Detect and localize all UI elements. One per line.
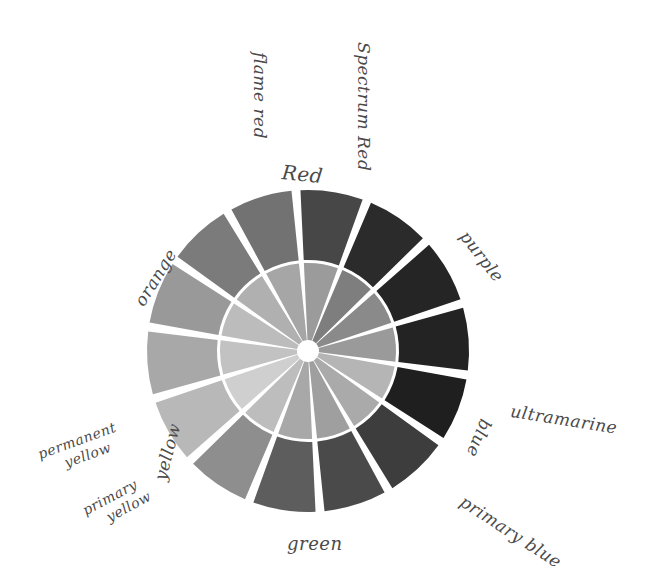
label-flame-red: flame red <box>251 52 268 139</box>
label-spectrum-red: Spectrum Red <box>355 42 372 171</box>
wheel-hub <box>297 340 319 362</box>
label-green: green <box>287 535 343 553</box>
label-red: Red <box>281 162 324 186</box>
color-wheel-photo: Spectrum Red flame red Red purple ultram… <box>0 0 663 585</box>
